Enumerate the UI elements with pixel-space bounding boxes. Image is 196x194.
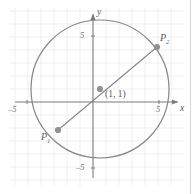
- figure-right-border: [190, 0, 191, 194]
- point-center-marker: [97, 86, 103, 92]
- point-p2-subscript: 2: [166, 38, 169, 45]
- y-tick-label-5: 5: [80, 31, 84, 40]
- point-p1-marker: [55, 127, 61, 133]
- y-axis: [90, 14, 95, 178]
- x-axis-label: x: [180, 104, 184, 114]
- circle-center-label: (1, 1): [105, 90, 126, 100]
- y-tick-label-negative-5: –5: [76, 163, 85, 172]
- y-axis-label: y: [97, 8, 101, 18]
- circle-diagram-figure: –5 5 5 –5 x y P1 P2 (1, 1): [0, 0, 196, 194]
- point-p1-subscript: 1: [47, 137, 50, 144]
- plot-canvas: [0, 0, 196, 194]
- x-tick-label-5: 5: [156, 105, 160, 114]
- point-p1-label: P1: [41, 132, 50, 145]
- x-tick-label-negative-5: –5: [8, 105, 17, 114]
- x-axis: [15, 99, 178, 104]
- point-p2-label: P2: [160, 33, 169, 46]
